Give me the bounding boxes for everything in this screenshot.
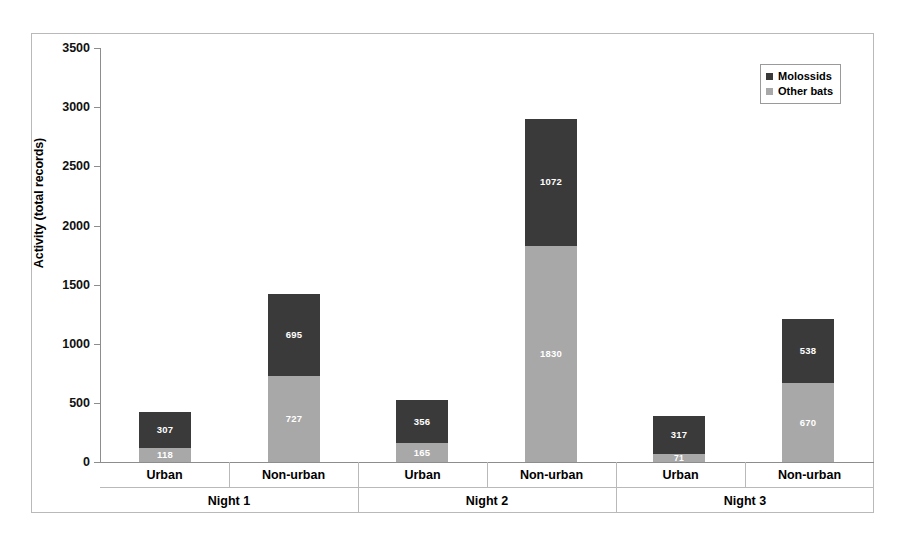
bar-value-label: 1072 [540,177,562,187]
bar-value-label: 1830 [540,349,562,359]
bar-segment-other-bats[interactable]: 165 [396,443,448,463]
bar-value-label: 356 [414,417,430,427]
y-tick-label-500: 500 [28,396,90,410]
plot-area: 118 307 727 695 165 356 [100,48,874,462]
bar-night3-urban[interactable]: 71 317 [653,416,705,462]
bar-value-label: 538 [800,346,816,356]
category-label-night2-nonurban: Non-urban [487,462,616,488]
bar-night2-urban[interactable]: 165 356 [396,400,448,462]
legend-item-molossids[interactable]: Molossids [766,69,833,84]
bar-night3-nonurban[interactable]: 670 538 [782,319,834,462]
bar-value-label: 165 [414,448,430,458]
bar-segment-molossids[interactable]: 538 [782,319,834,383]
bar-value-label: 727 [286,414,302,424]
y-tick-label-3500: 3500 [28,41,90,55]
y-tick-label-1000: 1000 [28,337,90,351]
bar-segment-molossids[interactable]: 356 [396,400,448,442]
bar-segment-other-bats[interactable]: 71 [653,454,705,462]
bar-night2-nonurban[interactable]: 1830 1072 [525,119,577,462]
bar-value-label: 118 [157,450,173,460]
chart-legend: Molossids Other bats [760,64,841,104]
bar-value-label: 670 [800,418,816,428]
group-label-night2: Night 2 [358,488,616,513]
bar-segment-other-bats[interactable]: 670 [782,383,834,462]
category-axis-band: Urban Non-urban Urban Non-urban Urban No… [100,462,874,488]
y-tick-label-2500: 2500 [28,159,90,173]
bar-segment-other-bats[interactable]: 727 [268,376,320,462]
group-label-night3: Night 3 [616,488,874,513]
bar-value-label: 317 [671,430,687,440]
bar-value-label: 307 [157,425,173,435]
y-tick-label-3000: 3000 [28,100,90,114]
legend-label-other-bats: Other bats [778,86,833,97]
bar-value-label: 71 [674,454,684,462]
legend-swatch-icon [766,88,773,95]
category-label-night1-nonurban: Non-urban [229,462,358,488]
bar-value-label: 695 [286,330,302,340]
category-label-night3-nonurban: Non-urban [745,462,874,488]
group-label-night1: Night 1 [100,488,358,513]
legend-swatch-icon [766,73,773,80]
group-axis-band: Night 1 Night 2 Night 3 [100,488,874,513]
bar-night1-urban[interactable]: 118 307 [139,412,191,462]
y-tick-label-1500: 1500 [28,278,90,292]
legend-label-molossids: Molossids [778,71,832,82]
category-label-night2-urban: Urban [358,462,487,488]
category-label-night1-urban: Urban [100,462,229,488]
category-label-night3-urban: Urban [616,462,745,488]
y-tick-label-2000: 2000 [28,219,90,233]
bar-segment-other-bats[interactable]: 118 [139,448,191,462]
y-tick-label-0: 0 [28,455,90,469]
bar-segment-other-bats[interactable]: 1830 [525,246,577,463]
bar-segment-molossids[interactable]: 695 [268,294,320,376]
legend-item-other-bats[interactable]: Other bats [766,84,833,99]
bat-activity-stacked-bar-chart: Activity (total records) 3500 3000 2500 … [0,0,916,539]
bar-segment-molossids[interactable]: 317 [653,416,705,454]
bar-night1-nonurban[interactable]: 727 695 [268,294,320,462]
bar-segment-molossids[interactable]: 307 [139,412,191,448]
bar-segment-molossids[interactable]: 1072 [525,119,577,246]
